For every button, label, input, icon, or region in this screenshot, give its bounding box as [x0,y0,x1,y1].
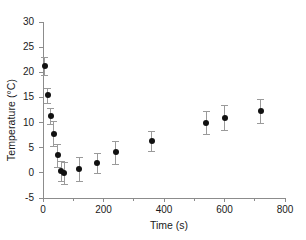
data-point [203,120,209,126]
error-bar-cap-top [61,162,68,163]
x-tick-mark [164,198,165,202]
data-point [222,115,228,121]
error-bar-cap-bottom [112,164,119,165]
x-minor-tick-mark [194,198,195,201]
error-bar-cap-top [148,131,155,132]
error-bar-cap-bottom [203,134,210,135]
y-axis-label: Temperature (°C) [3,0,19,240]
x-tick-label: 600 [205,204,245,215]
error-bar-cap-bottom [94,173,101,174]
x-tick-mark [285,198,286,202]
error-bar-cap-top [221,105,228,106]
error-bar-cap-bottom [221,130,228,131]
data-point [55,152,61,158]
error-bar-cap-top [257,99,264,100]
error-bar-cap-top [94,153,101,154]
error-bar-cap-bottom [41,75,48,76]
x-minor-tick-mark [133,198,134,201]
error-bar-cap-bottom [257,123,264,124]
error-bar-cap-top [47,108,54,109]
data-point [61,170,67,176]
data-point [42,63,48,69]
x-tick-mark [224,198,225,202]
data-point [51,131,57,137]
error-bar-cap-top [50,121,57,122]
error-bar-cap-bottom [148,151,155,152]
data-point [48,113,54,119]
error-bar-cap-top [76,157,83,158]
y-tick-mark [39,172,43,173]
x-tick-label: 200 [84,204,124,215]
error-bar-cap-top [41,57,48,58]
x-tick-label: 800 [265,204,305,215]
data-point [149,138,155,144]
y-tick-mark [39,147,43,148]
error-bar-cap-top [203,111,210,112]
data-point [45,92,51,98]
error-bar-cap-top [54,144,61,145]
x-tick-label: 0 [23,204,63,215]
x-minor-tick-mark [73,198,74,201]
y-tick-mark [39,47,43,48]
error-bar-cap-bottom [44,103,51,104]
data-point [258,108,264,114]
data-point [113,149,119,155]
error-bar-cap-top [112,141,119,142]
plot-area: -50510152025300200400600800 [0,0,306,240]
x-tick-label: 400 [144,204,184,215]
y-tick-mark [39,22,43,23]
error-bar-cap-bottom [50,146,57,147]
x-minor-tick-mark [254,198,255,201]
y-tick-mark [39,72,43,73]
y-tick-mark [39,97,43,98]
x-tick-mark [103,198,104,202]
error-bar-cap-top [44,88,51,89]
data-point [94,160,100,166]
error-bar-cap-bottom [76,181,83,182]
y-tick-mark [39,122,43,123]
x-axis-label: Time (s) [150,219,270,232]
error-bar-cap-bottom [61,184,68,185]
x-tick-mark [43,198,44,202]
chart-figure: -50510152025300200400600800 Temperature … [0,0,306,240]
data-point [76,166,82,172]
